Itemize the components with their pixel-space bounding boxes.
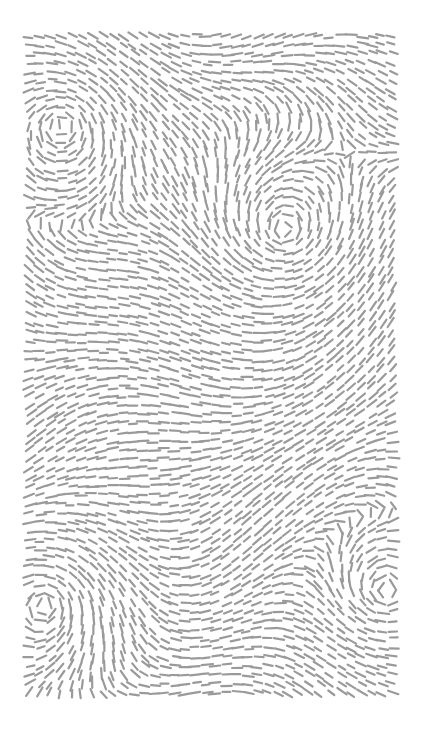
dash-stroke	[235, 529, 241, 534]
dash-stroke	[87, 378, 96, 380]
dash-stroke	[152, 95, 159, 102]
dash-stroke	[117, 521, 126, 524]
dash-stroke	[294, 64, 305, 66]
dash-stroke	[389, 621, 397, 622]
dash-stroke	[366, 70, 375, 75]
dash-stroke	[307, 240, 313, 248]
dash-stroke	[283, 492, 290, 498]
dash-stroke	[225, 269, 233, 274]
dash-stroke	[26, 98, 35, 104]
dash-stroke	[231, 296, 242, 300]
dash-stroke	[89, 149, 94, 158]
dash-stroke	[203, 628, 213, 630]
dash-stroke	[359, 638, 367, 641]
dash-stroke	[212, 448, 221, 450]
dash-stroke	[223, 491, 230, 495]
dash-stroke	[97, 50, 105, 55]
dash-stroke	[269, 119, 270, 130]
dash-stroke	[79, 566, 85, 571]
dash-stroke	[118, 334, 126, 335]
dash-stroke	[109, 537, 117, 541]
dash-stroke	[386, 89, 395, 94]
dash-stroke	[306, 341, 315, 346]
dash-stroke	[293, 249, 302, 254]
dash-stroke	[286, 502, 294, 509]
dash-stroke	[169, 520, 180, 521]
dash-stroke	[327, 349, 335, 355]
dash-stroke	[370, 392, 378, 399]
dash-stroke	[349, 458, 357, 461]
dash-stroke	[359, 528, 365, 534]
dash-stroke	[248, 201, 251, 212]
dash-stroke	[150, 556, 157, 559]
dash-stroke	[79, 106, 85, 112]
dash-stroke	[245, 692, 254, 694]
dash-stroke	[89, 167, 94, 173]
dash-stroke	[315, 485, 324, 491]
dash-stroke	[317, 656, 326, 661]
dash-stroke	[234, 475, 242, 480]
dash-stroke	[119, 537, 128, 542]
dash-stroke	[100, 176, 104, 183]
dash-stroke	[335, 521, 345, 522]
dash-stroke	[190, 595, 198, 596]
dash-stroke	[347, 52, 357, 55]
dash-stroke	[68, 306, 79, 308]
dash-stroke	[69, 583, 75, 590]
dash-stroke	[128, 441, 138, 442]
dash-stroke	[283, 315, 294, 318]
dash-stroke	[140, 591, 146, 598]
dash-stroke	[38, 188, 46, 191]
dash-stroke	[80, 591, 84, 598]
dash-stroke	[87, 102, 94, 110]
dash-stroke	[169, 531, 178, 532]
dash-stroke	[327, 446, 334, 450]
dash-stroke	[193, 358, 202, 361]
dash-stroke	[211, 575, 221, 580]
dash-stroke	[254, 681, 262, 683]
dash-stroke	[286, 613, 294, 615]
dash-stroke	[99, 69, 108, 75]
dash-stroke	[90, 178, 96, 184]
dash-stroke	[350, 518, 351, 528]
dash-stroke	[344, 511, 354, 512]
dash-stroke	[122, 114, 126, 121]
dash-stroke	[111, 557, 118, 563]
dash-stroke	[276, 422, 284, 425]
dash-stroke	[131, 262, 140, 264]
dash-stroke	[37, 599, 41, 607]
dash-stroke	[169, 294, 179, 299]
dash-stroke	[66, 113, 73, 119]
dash-stroke	[352, 164, 353, 174]
dash-stroke	[111, 150, 112, 158]
dash-stroke	[377, 432, 385, 435]
dash-stroke	[272, 52, 283, 54]
dash-stroke	[44, 555, 55, 557]
dash-stroke	[275, 195, 282, 198]
dash-stroke	[69, 565, 76, 570]
dash-stroke	[266, 96, 274, 103]
dash-stroke	[183, 229, 190, 237]
dash-stroke	[58, 171, 68, 172]
dash-stroke	[138, 259, 147, 261]
dash-stroke	[360, 122, 366, 128]
dash-stroke	[368, 160, 376, 165]
dash-stroke	[189, 666, 200, 667]
dash-stroke	[142, 405, 150, 406]
dash-stroke	[58, 117, 67, 118]
dash-stroke	[151, 323, 159, 325]
dash-stroke	[244, 564, 252, 570]
dash-stroke	[266, 242, 273, 247]
dash-stroke	[88, 580, 94, 588]
dash-stroke	[150, 240, 157, 243]
dash-stroke	[139, 370, 147, 372]
dash-stroke	[314, 160, 324, 161]
dash-stroke	[34, 88, 43, 90]
dash-stroke	[283, 214, 293, 216]
dash-stroke	[337, 688, 346, 694]
dash-stroke	[174, 104, 180, 109]
dash-stroke	[283, 692, 292, 697]
dash-stroke	[304, 177, 312, 180]
dash-stroke	[68, 403, 78, 408]
dash-stroke	[368, 691, 375, 695]
